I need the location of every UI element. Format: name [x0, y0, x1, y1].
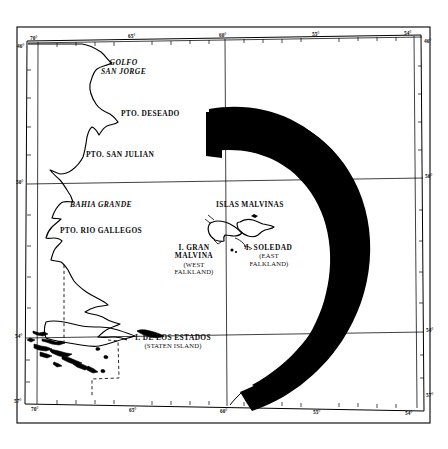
lat-label-right-54: 54°	[426, 327, 433, 333]
label-pto-rio-gallegos: PTO. RIO GALLEGOS	[60, 227, 142, 235]
label-golfo-san-jorge: GOLFO SAN JORGE	[101, 59, 146, 76]
lon-label-bottom-54: 54°	[405, 410, 412, 416]
zone-upper-edge	[206, 112, 222, 158]
label-isla-gran-malvina: I. GRAN MALVINA (WEST FALKLAND)	[164, 244, 224, 275]
lat-label-right-57: 57°	[426, 392, 433, 398]
label-isla-soledad: I. SOLEDAD (EAST FALKLAND)	[238, 244, 300, 267]
lon-label-top-70: 70°	[30, 35, 37, 41]
label-islas-malvinas: ISLAS MALVINAS	[216, 201, 284, 209]
gran-malvina-detail	[205, 215, 221, 244]
lat-label-left-50: 50°	[16, 179, 23, 185]
coastline-argentina	[28, 44, 127, 340]
lon-label-bottom-65: 65°	[129, 407, 136, 413]
lon-label-top-55: 55°	[312, 31, 319, 37]
label-bahia-grande: BAHIA GRANDE	[70, 201, 132, 210]
soledad-line2: (EAST	[238, 252, 300, 259]
label-isla-de-los-estados: I. DE LOS ESTADOS (STATEN ISLAND)	[128, 334, 218, 350]
lat-label-right-46: 46°	[424, 38, 431, 44]
golfo-san-jorge-line2: SAN JORGE	[101, 68, 146, 77]
bottom-ticks	[57, 400, 396, 408]
label-pto-deseado: PTO. DESEADO	[121, 110, 180, 118]
estados-line2: (STATEN ISLAND)	[128, 342, 218, 349]
soledad-line1: I. SOLEDAD	[238, 244, 300, 252]
isla-soledad	[237, 219, 274, 236]
map-figure: 70° 46° 65° 60° 55° 54° 46° 50° 50° 54° …	[0, 0, 448, 449]
lon-label-bottom-70: 70°	[31, 406, 38, 412]
label-pto-san-julian: PTO. SAN JULIAN	[86, 151, 154, 159]
gran-malvina-line3: (WEST	[164, 261, 224, 268]
lon-label-bottom-60: 60°	[220, 408, 227, 414]
lat-label-left-46: 46°	[17, 43, 24, 49]
lat-label-right-50: 50°	[425, 173, 432, 179]
lon-label-top-65: 65°	[128, 33, 135, 39]
lon-label-top-60: 60°	[219, 32, 226, 38]
lon-label-bottom-55: 55°	[313, 409, 320, 415]
lat-label-left-57: 57°	[14, 398, 21, 404]
zone-boundary-line	[230, 393, 241, 405]
gran-malvina-line2: MALVINA	[164, 252, 224, 260]
estados-line1: I. DE LOS ESTADOS	[128, 334, 218, 342]
lat-label-left-54: 54°	[15, 333, 22, 339]
lon-label-top-54: 54°	[404, 30, 411, 36]
gran-malvina-line4: FALKLAND)	[164, 268, 224, 275]
soledad-line3: FALKLAND)	[238, 260, 300, 267]
map-graphic	[0, 0, 448, 449]
